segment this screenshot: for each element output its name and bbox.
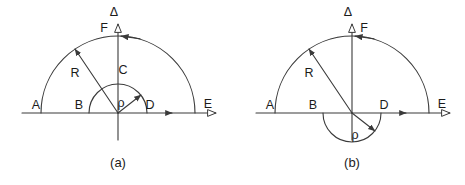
label-b-A: A [266,98,275,112]
label-b-B: B [309,98,317,112]
label-a-rho: ρ [117,96,124,110]
label-b-F: F [360,21,368,35]
label-a-C: C [118,63,127,77]
caption-b: (b) [344,155,360,170]
panel-a [22,24,216,140]
figure-container: A B C D E F R ρ Δ A B D E F R ρ Δ (a) (b… [0,0,465,185]
label-a-E: E [204,97,212,111]
label-a-delta: Δ [110,5,118,19]
label-a-F: F [100,21,108,35]
label-a-B: B [75,98,83,112]
label-b-E: E [438,97,446,111]
label-b-rho: ρ [351,128,358,142]
panel-b [256,24,450,142]
geometry-diagram-svg: A B C D E F R ρ Δ A B D E F R ρ Δ (a) (b… [0,0,465,185]
label-b-R: R [304,66,313,80]
label-b-D: D [379,98,388,112]
label-a-R: R [70,66,79,80]
caption-a: (a) [110,155,126,170]
label-a-A: A [32,98,41,112]
label-a-D: D [145,98,154,112]
label-b-delta: Δ [344,5,352,19]
